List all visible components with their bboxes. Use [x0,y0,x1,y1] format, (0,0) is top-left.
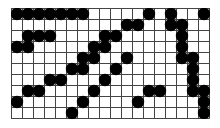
black-stone-icon[interactable] [121,52,133,64]
board-cell[interactable] [144,75,154,85]
black-stone-icon[interactable] [66,8,78,20]
board-cell[interactable] [89,97,99,107]
board-cell[interactable] [100,64,110,74]
board-cell[interactable] [155,97,165,107]
board-cell[interactable] [23,97,33,107]
black-stone-icon[interactable] [22,41,34,53]
board-cell[interactable] [177,108,187,118]
black-stone-icon[interactable] [77,8,89,20]
board-cell[interactable] [155,9,165,19]
black-stone-icon[interactable] [88,52,100,64]
board-cell[interactable] [133,9,143,19]
board-cell[interactable] [78,108,88,118]
black-stone-icon[interactable] [11,41,23,53]
board-cell[interactable] [155,108,165,118]
board-cell[interactable] [155,20,165,30]
board-cell[interactable] [67,86,77,96]
board-cell[interactable] [177,64,187,74]
board-cell[interactable] [111,75,121,85]
black-stone-icon[interactable] [198,8,210,20]
board-cell[interactable] [166,53,176,63]
board-cell[interactable] [78,20,88,30]
board-cell[interactable] [78,31,88,41]
board-cell[interactable] [56,97,66,107]
board-cell[interactable] [67,20,77,30]
board-cell[interactable] [34,75,44,85]
black-stone-icon[interactable] [44,30,56,42]
board-cell[interactable] [188,97,198,107]
board-cell[interactable] [34,64,44,74]
black-stone-icon[interactable] [66,107,78,119]
board-cell[interactable] [56,20,66,30]
black-stone-icon[interactable] [22,8,34,20]
board-cell[interactable] [199,75,209,85]
board-cell[interactable] [12,31,22,41]
board-cell[interactable] [177,9,187,19]
black-stone-icon[interactable] [22,85,34,97]
black-stone-icon[interactable] [176,19,188,31]
board-cell[interactable] [34,53,44,63]
board-cell[interactable] [144,108,154,118]
board-cell[interactable] [89,108,99,118]
black-stone-icon[interactable] [55,74,67,86]
board-cell[interactable] [67,31,77,41]
black-stone-icon[interactable] [121,19,133,31]
board-cell[interactable] [23,53,33,63]
black-stone-icon[interactable] [22,30,34,42]
board-cell[interactable] [122,64,132,74]
black-stone-icon[interactable] [132,96,144,108]
black-stone-icon[interactable] [176,41,188,53]
board-cell[interactable] [188,20,198,30]
black-stone-icon[interactable] [187,85,199,97]
board-cell[interactable] [199,20,209,30]
black-stone-icon[interactable] [132,19,144,31]
black-stone-icon[interactable] [165,19,177,31]
board-cell[interactable] [45,64,55,74]
board-cell[interactable] [45,97,55,107]
black-stone-icon[interactable] [55,8,67,20]
board-cell[interactable] [177,86,187,96]
board-cell[interactable] [100,53,110,63]
board-cell[interactable] [111,97,121,107]
board-cell[interactable] [133,86,143,96]
board-cell[interactable] [155,31,165,41]
board-cell[interactable] [12,75,22,85]
board-cell[interactable] [166,86,176,96]
board-cell[interactable] [144,97,154,107]
board-cell[interactable] [133,42,143,52]
board-cell[interactable] [56,42,66,52]
black-stone-icon[interactable] [99,74,111,86]
black-stone-icon[interactable] [66,63,78,75]
board-cell[interactable] [12,20,22,30]
board-cell[interactable] [56,86,66,96]
board-cell[interactable] [144,42,154,52]
board-cell[interactable] [155,42,165,52]
board-cell[interactable] [166,64,176,74]
black-stone-icon[interactable] [198,85,210,97]
board-cell[interactable] [133,64,143,74]
board-cell[interactable] [12,86,22,96]
board-cell[interactable] [67,75,77,85]
black-stone-icon[interactable] [11,96,23,108]
board-cell[interactable] [34,97,44,107]
black-stone-icon[interactable] [154,85,166,97]
board-cell[interactable] [111,42,121,52]
board-cell[interactable] [89,64,99,74]
board-cell[interactable] [133,53,143,63]
board-cell[interactable] [56,31,66,41]
board-cell[interactable] [199,31,209,41]
board-cell[interactable] [45,86,55,96]
board-cell[interactable] [122,31,132,41]
black-stone-icon[interactable] [110,63,122,75]
board-cell[interactable] [89,75,99,85]
board-cell[interactable] [188,31,198,41]
black-stone-icon[interactable] [88,85,100,97]
board-cell[interactable] [23,20,33,30]
board-cell[interactable] [45,53,55,63]
board-cell[interactable] [122,75,132,85]
board-cell[interactable] [78,86,88,96]
black-stone-icon[interactable] [143,85,155,97]
board-cell[interactable] [67,42,77,52]
board-cell[interactable] [199,42,209,52]
board-cell[interactable] [144,64,154,74]
